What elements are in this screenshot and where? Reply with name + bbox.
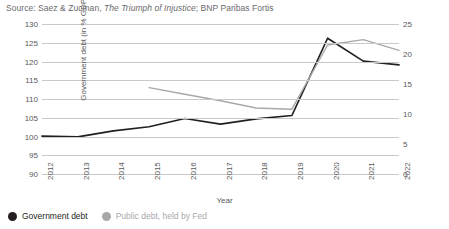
x-axis-tick-label: 2015 xyxy=(153,162,162,180)
circle-marker xyxy=(8,212,17,221)
x-axis-tick-label: 2013 xyxy=(82,162,91,180)
x-axis-tick-label: 2012 xyxy=(46,162,55,180)
x-axis-tick-label: 2018 xyxy=(260,162,269,180)
x-axis-tick-label: 2020 xyxy=(332,162,341,180)
y-axis-left-tick-label: 125 xyxy=(0,43,38,44)
gridline xyxy=(42,118,399,119)
plot-area: 9095100105110115120125130 0510152025 201… xyxy=(42,24,399,174)
source-suffix: ; BNP Paribas Fortis xyxy=(196,3,274,13)
legend-item[interactable]: Government debt xyxy=(8,211,88,221)
x-axis-tick-label: 2019 xyxy=(296,162,305,180)
x-axis-tick-label: 2022 xyxy=(403,162,412,180)
y-axis-left-title: Government debt (in % GDP) xyxy=(79,0,88,124)
gridline xyxy=(42,62,399,63)
legend-item[interactable]: Public debt, held by Fed xyxy=(102,211,207,221)
series-line xyxy=(42,38,399,137)
chart-container: 9095100105110115120125130 0510152025 201… xyxy=(0,18,449,196)
x-axis-tick-label: 2014 xyxy=(117,162,126,180)
circle-marker xyxy=(102,212,111,221)
y-axis-right-tick-label: 25 xyxy=(403,24,443,25)
gridline xyxy=(42,137,399,138)
y-axis-right-tick-label: 15 xyxy=(403,84,443,85)
x-axis-tick-label: 2017 xyxy=(225,162,234,180)
gridline xyxy=(42,99,399,100)
x-axis-tick-label: 2021 xyxy=(367,162,376,180)
y-axis-right-tick-label: 5 xyxy=(403,144,443,145)
y-axis-left-tick-label: 115 xyxy=(0,80,38,81)
x-axis-tick-label: 2016 xyxy=(189,162,198,180)
y-axis-left-tick-label: 110 xyxy=(0,99,38,100)
gridline xyxy=(42,43,399,44)
gridline xyxy=(42,80,399,81)
y-axis-right-tick-label: 10 xyxy=(403,114,443,115)
source-title: The Triumph of Injustice xyxy=(104,3,196,13)
y-axis-left-tick-label: 130 xyxy=(0,24,38,25)
y-axis-left-tick-label: 120 xyxy=(0,62,38,63)
gridline xyxy=(42,24,399,25)
source-prefix: Source: Saez & Zucman, xyxy=(6,3,104,13)
y-axis-left-tick-label: 105 xyxy=(0,118,38,119)
y-axis-right-tick-label: 20 xyxy=(403,54,443,55)
y-axis-left-tick-label: 100 xyxy=(0,137,38,138)
gridline xyxy=(42,174,399,175)
chart-legend: Government debtPublic debt, held by Fed xyxy=(8,211,207,221)
y-axis-left-tick-label: 90 xyxy=(0,174,38,175)
legend-label: Public debt, held by Fed xyxy=(116,211,207,221)
legend-label: Government debt xyxy=(22,211,88,221)
source-attribution: Source: Saez & Zucman, The Triumph of In… xyxy=(6,3,274,13)
y-axis-left-tick-label: 95 xyxy=(0,155,38,156)
x-axis-title: Year xyxy=(0,196,449,205)
gridline xyxy=(42,155,399,156)
